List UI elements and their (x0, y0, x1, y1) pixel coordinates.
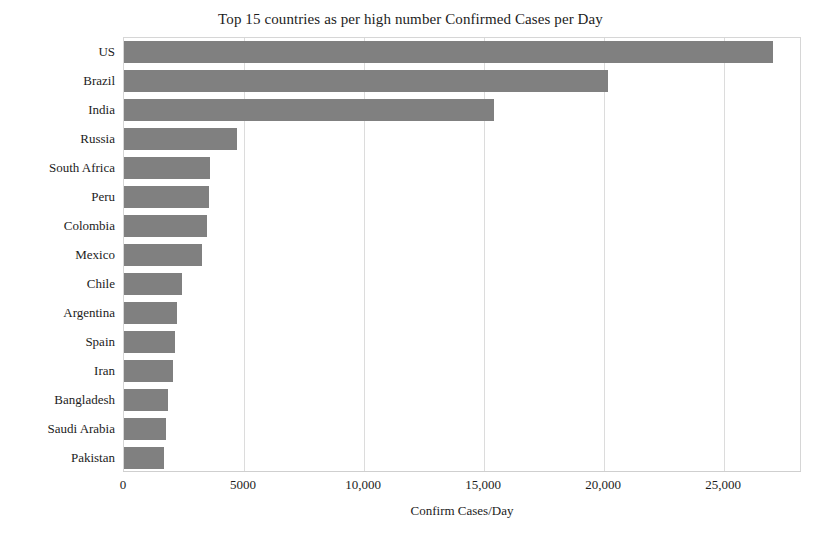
bar-chile (124, 273, 182, 295)
y-tick-label-chile: Chile (3, 277, 115, 291)
bar-row (124, 270, 800, 299)
x-tick-label-15000: 15,000 (438, 477, 528, 493)
bar-row (124, 38, 800, 67)
y-tick-label-saudi-arabia: Saudi Arabia (3, 422, 115, 436)
y-tick-label-argentina: Argentina (3, 306, 115, 320)
y-tick-label-south-africa: South Africa (3, 161, 115, 175)
bar-colombia (124, 215, 207, 237)
x-tick-label-5000: 5000 (198, 477, 288, 493)
bar-peru (124, 186, 209, 208)
y-tick-label-mexico: Mexico (3, 248, 115, 262)
bar-mexico (124, 244, 202, 266)
x-axis-title: Confirm Cases/Day (123, 503, 801, 519)
bar-row (124, 183, 800, 212)
y-tick-label-india: India (3, 103, 115, 117)
x-tick-label-20000: 20,000 (558, 477, 648, 493)
y-tick-label-pakistan: Pakistan (3, 451, 115, 465)
x-tick-label-10000: 10,000 (318, 477, 408, 493)
bar-row (124, 96, 800, 125)
y-tick-label-bangladesh: Bangladesh (3, 393, 115, 407)
y-tick-label-peru: Peru (3, 190, 115, 204)
y-tick-label-us: US (3, 45, 115, 59)
bar-row (124, 357, 800, 386)
x-axis-tick-labels: 0500010,00015,00020,00025,000 (0, 477, 821, 497)
chart-figure: Top 15 countries as per high number Conf… (0, 0, 821, 534)
y-axis-tick-labels: USBrazilIndiaRussiaSouth AfricaPeruColom… (0, 37, 115, 472)
bar-south-africa (124, 157, 210, 179)
bar-row (124, 328, 800, 357)
bar-us (124, 41, 773, 63)
y-tick-label-russia: Russia (3, 132, 115, 146)
bar-row (124, 415, 800, 444)
bar-russia (124, 128, 237, 150)
x-tick-label-25000: 25,000 (678, 477, 768, 493)
bar-row (124, 386, 800, 415)
bar-row (124, 212, 800, 241)
y-tick-label-colombia: Colombia (3, 219, 115, 233)
bar-row (124, 67, 800, 96)
bar-row (124, 299, 800, 328)
x-tick-label-0: 0 (78, 477, 168, 493)
x-axis-line (123, 471, 801, 472)
bar-row (124, 125, 800, 154)
y-tick-label-iran: Iran (3, 364, 115, 378)
plot-area (123, 37, 801, 472)
y-tick-label-brazil: Brazil (3, 74, 115, 88)
bar-row (124, 154, 800, 183)
bar-argentina (124, 302, 177, 324)
bar-india (124, 99, 494, 121)
bar-spain (124, 331, 175, 353)
bar-iran (124, 360, 173, 382)
bar-bangladesh (124, 389, 168, 411)
bar-row (124, 444, 800, 473)
bar-saudi-arabia (124, 418, 166, 440)
bar-brazil (124, 70, 608, 92)
bar-pakistan (124, 447, 164, 469)
chart-title: Top 15 countries as per high number Conf… (0, 11, 821, 28)
bar-row (124, 241, 800, 270)
y-tick-label-spain: Spain (3, 335, 115, 349)
